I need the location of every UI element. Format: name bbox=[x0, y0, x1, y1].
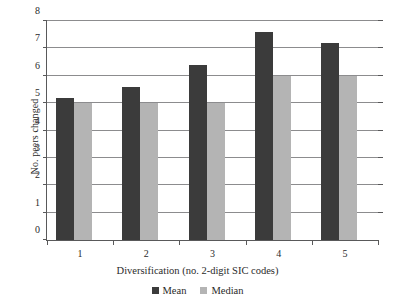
bar-median-2 bbox=[140, 103, 158, 240]
y-axis-tick-label: 3 bbox=[35, 141, 40, 152]
y-axis-title: No. peers changed bbox=[29, 57, 40, 217]
y-axis-tick-right bbox=[378, 130, 383, 131]
x-axis-tick bbox=[47, 240, 48, 245]
legend-swatch-icon bbox=[152, 287, 159, 294]
legend-swatch-icon bbox=[200, 287, 207, 294]
bar-mean-5 bbox=[321, 43, 339, 240]
y-axis-tick-right bbox=[378, 102, 383, 103]
x-axis-tick-label: 3 bbox=[210, 248, 215, 259]
x-axis-tick bbox=[246, 240, 247, 245]
bar-group bbox=[179, 21, 245, 240]
y-axis-tick-label: 4 bbox=[35, 114, 40, 125]
legend-item-median: Median bbox=[200, 285, 243, 296]
bars-layer bbox=[47, 21, 378, 240]
y-axis-tick-label: 5 bbox=[35, 87, 40, 98]
y-axis-tick-right bbox=[378, 20, 383, 21]
x-axis-tick bbox=[378, 240, 379, 245]
y-axis-tick-label: 8 bbox=[35, 5, 40, 16]
y-axis-tick-right bbox=[378, 184, 383, 185]
y-axis-tick-right bbox=[378, 212, 383, 213]
y-axis-tick-label: 1 bbox=[35, 196, 40, 207]
y-axis-tick-label: 6 bbox=[35, 59, 40, 70]
bar-mean-3 bbox=[189, 65, 207, 240]
x-axis-title: Diversification (no. 2-digit SIC codes) bbox=[0, 265, 395, 276]
bar-mean-4 bbox=[255, 32, 273, 240]
legend-label: Mean bbox=[163, 285, 187, 296]
bar-median-3 bbox=[207, 103, 225, 240]
x-axis-tick bbox=[113, 240, 114, 245]
y-axis-tick-label: 0 bbox=[35, 224, 40, 235]
x-axis-tick bbox=[179, 240, 180, 245]
x-axis-tick-label: 5 bbox=[342, 248, 347, 259]
bar-median-4 bbox=[273, 76, 291, 240]
y-axis-tick-right bbox=[378, 75, 383, 76]
plot-area: 012345678 12345 bbox=[46, 21, 378, 241]
y-axis-tick-right bbox=[378, 157, 383, 158]
y-axis-tick-label: 7 bbox=[35, 32, 40, 43]
y-axis-tick-label: 2 bbox=[35, 169, 40, 180]
legend-label: Median bbox=[211, 285, 243, 296]
chart-legend: MeanMedian bbox=[0, 285, 395, 296]
y-axis-tick-right bbox=[378, 47, 383, 48]
x-axis-tick-label: 4 bbox=[276, 248, 281, 259]
x-axis-tick-label: 2 bbox=[144, 248, 149, 259]
bar-median-1 bbox=[74, 103, 92, 240]
bar-group bbox=[312, 21, 378, 240]
x-axis-tick bbox=[312, 240, 313, 245]
legend-item-mean: Mean bbox=[152, 285, 187, 296]
x-axis-tick-label: 1 bbox=[78, 248, 83, 259]
bar-chart-figure: No. peers changed 012345678 12345 Divers… bbox=[0, 0, 395, 306]
bar-group bbox=[113, 21, 179, 240]
bar-mean-2 bbox=[122, 87, 140, 240]
bar-median-5 bbox=[339, 76, 357, 240]
bar-mean-1 bbox=[56, 98, 74, 240]
bar-group bbox=[47, 21, 113, 240]
bar-group bbox=[246, 21, 312, 240]
